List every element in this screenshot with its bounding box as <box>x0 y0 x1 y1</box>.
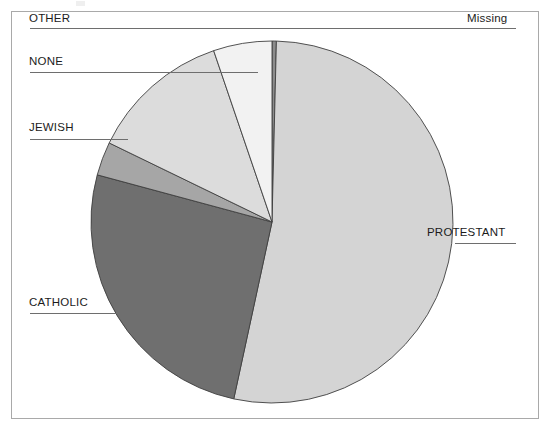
pie-chart-figure: OTHER NONE JEWISH CATHOLIC Missing PROTE… <box>0 0 550 431</box>
pie-slice-group <box>91 41 453 403</box>
slice-label-missing: Missing <box>467 12 507 25</box>
slice-label-protestant: PROTESTANT <box>427 226 505 239</box>
pie-svg <box>0 0 550 431</box>
slice-label-jewish: JEWISH <box>29 121 74 134</box>
slice-label-other: OTHER <box>29 12 70 25</box>
slice-label-none: NONE <box>29 55 63 68</box>
slice-label-catholic: CATHOLIC <box>29 296 88 309</box>
